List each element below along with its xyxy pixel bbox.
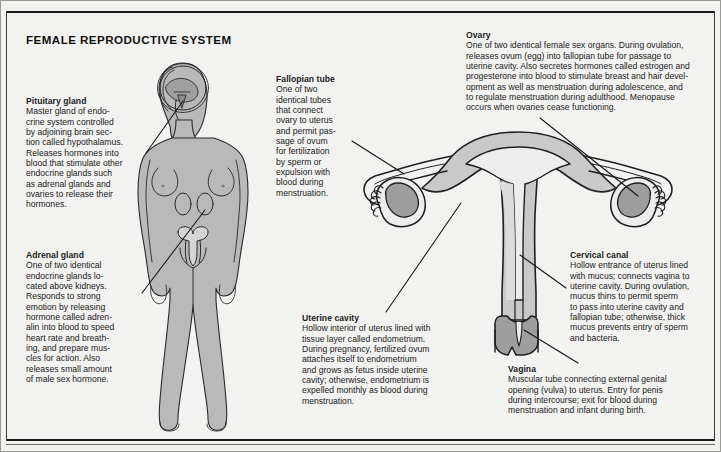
callout-body: Hollow interior of uterus lined with tis… (302, 323, 478, 406)
callout-heading: Ovary (466, 30, 716, 40)
callout-ovary: Ovary One of two identical female sex or… (466, 30, 716, 113)
callout-heading: Cervical canal (570, 250, 716, 260)
callout-heading: Pituitary gland (26, 96, 154, 106)
callout-cervical-canal: Cervical canal Hollow entrance of uterus… (570, 250, 716, 343)
leader-uterine-cavity (386, 203, 461, 312)
callout-body: One of two identical endocrine glands lo… (26, 260, 146, 384)
callout-heading: Adrenal gland (26, 250, 146, 260)
callout-vagina: Vagina Muscular tube connecting external… (508, 364, 714, 416)
callout-body: Hollow entrance of uterus lined with muc… (570, 260, 716, 343)
callout-fallopian-tube: Fallopian tube One of two identical tube… (276, 74, 358, 198)
callout-heading: Uterine cavity (302, 313, 478, 323)
callout-body: Master gland of endo- crine system contr… (26, 106, 154, 209)
callout-body: Muscular tube connecting external genita… (508, 374, 714, 415)
callout-pituitary-gland: Pituitary gland Master gland of endo- cr… (26, 96, 154, 210)
leader-adrenal (142, 210, 205, 293)
callout-adrenal-gland: Adrenal gland One of two identical endoc… (26, 250, 146, 384)
diagram-page: FEMALE REPRODUCTIVE SYSTEM (0, 0, 721, 452)
leader-fallopian (352, 141, 404, 174)
leader-ovary (540, 118, 638, 196)
callout-body: One of two identical female sex organs. … (466, 40, 716, 112)
callout-heading: Fallopian tube (276, 74, 358, 84)
callout-body: One of two identical tubes that connect … (276, 84, 358, 198)
callout-heading: Vagina (508, 364, 714, 374)
leader-cervical (520, 255, 566, 288)
callout-uterine-cavity: Uterine cavity Hollow interior of uterus… (302, 313, 478, 406)
